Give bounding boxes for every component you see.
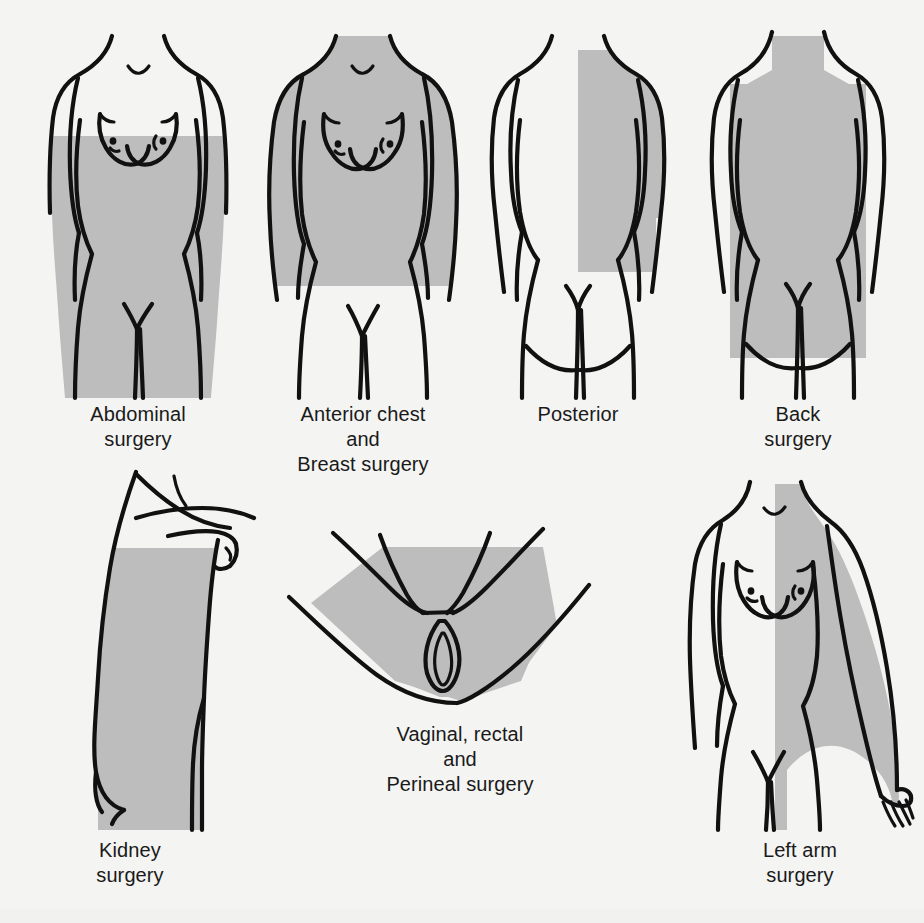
caption-posterior: Posterior [468, 402, 688, 427]
figure-posterior [468, 28, 688, 398]
figure-perineal-drawing [275, 485, 645, 710]
figure-abdominal [28, 28, 248, 398]
figure-anterior-chest-breast-drawing [248, 28, 478, 398]
figure-kidney-drawing [40, 470, 290, 830]
figure-kidney [40, 470, 290, 830]
caption-anterior-chest-breast: Anterior chest and Breast surgery [243, 402, 483, 477]
figure-anterior-chest-breast [248, 28, 478, 398]
figure-left-arm-drawing [655, 470, 915, 830]
figure-abdominal-drawing [28, 28, 248, 398]
scan-edge-artifact [0, 909, 924, 923]
caption-kidney: Kidney surgery [30, 838, 230, 888]
figure-back [688, 28, 908, 398]
caption-left-arm: Left arm surgery [700, 838, 900, 888]
caption-abdominal: Abdominal surgery [28, 402, 248, 452]
caption-perineal: Vaginal, rectal and Perineal surgery [285, 722, 635, 797]
shade-anterior-chest-region [248, 28, 478, 286]
figure-posterior-drawing [468, 28, 688, 398]
surgical-prep-figure-sheet: Abdominal surgery [0, 0, 924, 923]
figure-left-arm [655, 470, 915, 830]
figure-back-drawing [688, 28, 908, 398]
figure-perineal [275, 485, 645, 710]
caption-back: Back surgery [688, 402, 908, 452]
